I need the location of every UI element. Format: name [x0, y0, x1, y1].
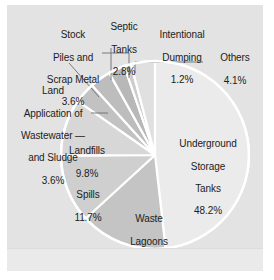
- others-line2: 4.1%: [211, 75, 259, 86]
- intentional-dumping-line2: Dumping: [146, 52, 218, 63]
- land-application-line2: Application of: [13, 108, 93, 119]
- slice-label-others: Others 4.1%: [211, 41, 259, 97]
- ust-line4: 48.2%: [166, 205, 250, 216]
- panel-bottom-band: [7, 248, 263, 271]
- land-application-line1: Land: [13, 85, 93, 96]
- chart-figure: Stock Piles and Scrap Metal 3.6% Septic …: [0, 0, 274, 280]
- slice-label-intentional-dumping: Intentional Dumping 1.2%: [146, 18, 218, 96]
- slice-label-underground-storage-tanks: Underground Storage Tanks 48.2%: [166, 127, 250, 228]
- septic-tanks-line1: Septic: [98, 21, 150, 32]
- intentional-dumping-line3: 1.2%: [146, 74, 218, 85]
- others-line1: Others: [211, 52, 259, 63]
- ust-line2: Storage: [166, 161, 250, 172]
- septic-tanks-line2: Tanks: [98, 44, 150, 55]
- septic-tanks-line3: 2.8%: [98, 66, 150, 77]
- waste-lagoons-line2: Lagoons: [119, 236, 179, 247]
- slice-label-spills: Spills 11.7%: [60, 178, 116, 234]
- ust-line3: Tanks: [166, 183, 250, 194]
- intentional-dumping-line1: Intentional: [146, 29, 218, 40]
- slice-label-septic-tanks: Septic Tanks 2.8%: [98, 10, 150, 88]
- chart-panel: Stock Piles and Scrap Metal 3.6% Septic …: [7, 5, 263, 271]
- spills-line1: Spills: [60, 189, 116, 200]
- ust-line1: Underground: [166, 138, 250, 149]
- landfills-line1: Landfills: [56, 145, 118, 156]
- spills-line2: 11.7%: [60, 212, 116, 223]
